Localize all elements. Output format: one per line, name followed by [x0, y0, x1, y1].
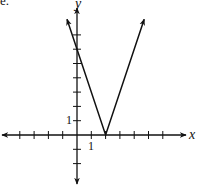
v-graph-line: [67, 19, 144, 135]
x-axis-label: x: [189, 128, 195, 142]
y-axis-label: y: [75, 0, 81, 11]
y-tick-label-1: 1: [66, 114, 72, 126]
coordinate-plane: [0, 0, 198, 186]
x-tick-label-1: 1: [88, 140, 94, 152]
